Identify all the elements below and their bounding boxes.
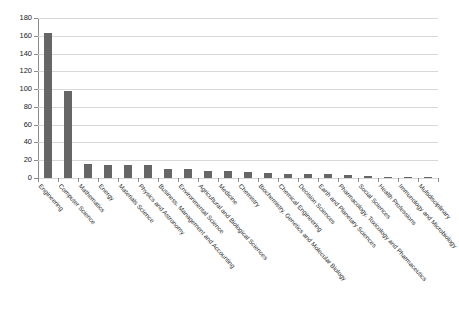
y-tick-mark: [34, 18, 38, 19]
y-tick-label: 40: [6, 139, 32, 147]
bar: [204, 171, 212, 178]
y-tick-label: 160: [6, 32, 32, 40]
y-tick-label: 140: [6, 50, 32, 58]
y-tick-label: 60: [6, 121, 32, 129]
x-tick-mark: [138, 178, 139, 182]
x-tick-mark: [78, 178, 79, 182]
plot-area: [38, 18, 438, 178]
bar: [104, 165, 112, 178]
y-tick-label: 180: [6, 14, 32, 22]
bar: [324, 174, 332, 178]
y-tick-mark: [34, 160, 38, 161]
x-tick-mark: [58, 178, 59, 182]
y-tick-label: 120: [6, 68, 32, 76]
x-tick-mark: [318, 178, 319, 182]
bar: [364, 176, 372, 178]
bar: [304, 174, 312, 178]
x-tick-mark: [198, 178, 199, 182]
x-tick-mark: [398, 178, 399, 182]
bar: [144, 165, 152, 178]
y-tick-mark: [34, 142, 38, 143]
x-axis-category-labels: EngineeringComputer ScienceMathematicsEn…: [0, 183, 451, 317]
bar: [384, 177, 392, 178]
y-tick-mark: [34, 107, 38, 108]
x-tick-mark: [158, 178, 159, 182]
y-tick-mark: [34, 36, 38, 37]
x-tick-mark: [418, 178, 419, 182]
bar: [164, 169, 172, 178]
x-tick-mark: [278, 178, 279, 182]
y-tick-label: 0: [6, 174, 32, 182]
x-tick-mark: [258, 178, 259, 182]
y-tick-mark: [34, 89, 38, 90]
x-tick-mark: [38, 178, 39, 182]
bar: [44, 33, 52, 178]
x-tick-mark: [438, 178, 439, 182]
y-tick-mark: [34, 71, 38, 72]
x-tick-mark: [98, 178, 99, 182]
x-tick-mark: [238, 178, 239, 182]
x-tick-mark: [338, 178, 339, 182]
bar: [284, 174, 292, 178]
x-tick-mark: [358, 178, 359, 182]
x-tick-mark: [298, 178, 299, 182]
bar: [424, 177, 432, 178]
y-tick-mark: [34, 125, 38, 126]
bar-series: [38, 18, 438, 178]
x-tick-mark: [178, 178, 179, 182]
x-axis-label: Energy: [97, 183, 115, 202]
bar: [124, 165, 132, 178]
y-tick-label: 100: [6, 85, 32, 93]
bar: [184, 169, 192, 178]
x-tick-mark: [218, 178, 219, 182]
bar: [244, 172, 252, 178]
bar: [64, 91, 72, 178]
bar: [344, 175, 352, 178]
bar: [264, 173, 272, 178]
bar: [404, 177, 412, 178]
bar: [84, 164, 92, 178]
bar: [224, 171, 232, 178]
x-tick-mark: [378, 178, 379, 182]
y-tick-mark: [34, 54, 38, 55]
x-tick-mark: [118, 178, 119, 182]
y-tick-label: 80: [6, 103, 32, 111]
y-tick-label: 20: [6, 156, 32, 164]
